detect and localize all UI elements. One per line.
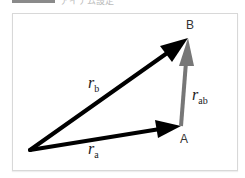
- vector-r-b-label: rb: [88, 74, 99, 94]
- vector-diagram: [0, 0, 245, 178]
- vector-r-a-label: ra: [88, 140, 99, 160]
- vector-r-ab: [179, 38, 194, 126]
- point-a-label: A: [180, 132, 188, 146]
- vector-r-ab-label: rab: [192, 86, 208, 106]
- point-b-label: B: [186, 18, 194, 32]
